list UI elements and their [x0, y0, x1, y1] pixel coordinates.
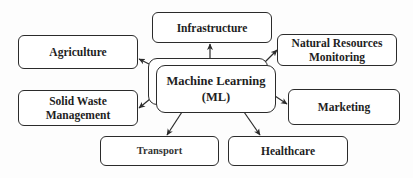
node-label-line2: Monitoring [292, 50, 383, 64]
node-label: Healthcare [261, 144, 315, 158]
node-label: Marketing [318, 100, 370, 114]
node-label: Agriculture [49, 45, 106, 59]
node-label: Infrastructure [177, 21, 248, 35]
node-infrastructure: Infrastructure [152, 12, 272, 43]
node-agriculture: Agriculture [18, 35, 138, 69]
arrow-to-natural-resources [265, 50, 277, 62]
node-solid-waste-management: Solid Waste Management [18, 90, 138, 126]
arrow-to-marketing [275, 96, 287, 104]
node-label-line1: Solid Waste [46, 94, 111, 108]
arrow-to-transport [167, 112, 182, 135]
diagram-canvas: ​ Infrastructure Agriculture Natural Res… [0, 0, 413, 178]
node-transport: Transport [100, 136, 219, 166]
node-label: Transport [137, 144, 182, 158]
center-label-line1: Machine Learning [167, 73, 266, 89]
node-marketing: Marketing [288, 89, 400, 125]
node-label-line2: Management [46, 108, 111, 122]
node-healthcare: Healthcare [228, 136, 348, 166]
center-node-machine-learning: Machine Learning (ML) [156, 65, 276, 113]
arrow-to-healthcare [244, 112, 260, 135]
node-label-line1: Natural Resources [292, 36, 383, 50]
node-natural-resources-monitoring: Natural Resources Monitoring [277, 34, 397, 66]
center-label-line2: (ML) [167, 89, 266, 105]
